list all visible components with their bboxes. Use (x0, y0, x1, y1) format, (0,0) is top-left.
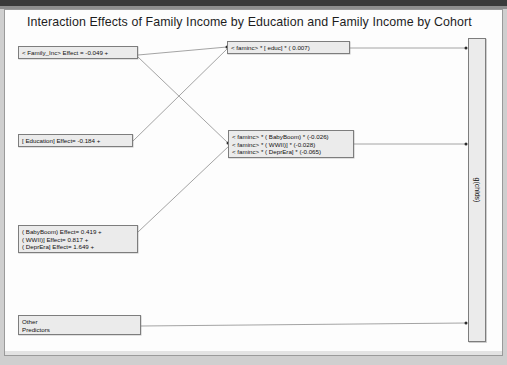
edge-education-to-faminc-educ (133, 49, 227, 141)
cohort-deprera-effect-text: ( DeprEra] Effect= 1.649 + (22, 243, 134, 251)
outcome-bar[interactable]: g(chlds) (468, 38, 486, 342)
faminc-by-educ-interaction-node[interactable]: < faminc> * [ educ] * ( 0.007) (227, 41, 350, 54)
page-bottom-edge (5, 351, 502, 355)
diagram-screenshot: Interaction Effects of Family Income by … (0, 0, 507, 365)
connector-lines (5, 10, 503, 356)
edge-endpoint-markers (226, 46, 468, 325)
diagram-page: Interaction Effects of Family Income by … (4, 9, 503, 356)
faminc-by-cohort-interaction-node[interactable]: < faminc> * ( BabyBoom) * (-0.026) < fam… (228, 130, 354, 158)
edge-family-income-to-faminc-educ (138, 47, 227, 55)
cohort-babyboom-effect-text: ( BabyBoom) Effect= 0.419 + (22, 228, 134, 236)
other-predictors-line-2: Predictors (22, 326, 137, 334)
education-node[interactable]: [ Education] Effect= -0.184 + (18, 134, 133, 147)
family-income-effect-text: < Family_Inc> Effect = -0.049 + (22, 49, 134, 57)
faminc-wwii-coefficient-text: < faminc> * ( WWII)] * (-0.028) (232, 141, 350, 149)
edge-cohort-to-faminc-cohort (138, 146, 229, 232)
faminc-babyboom-coefficient-text: < faminc> * ( BabyBoom) * (-0.026) (232, 133, 350, 141)
edge-family-income-to-faminc-cohort (138, 57, 227, 142)
faminc-educ-coefficient-text: < faminc> * [ educ] * ( 0.007) (231, 44, 346, 52)
family-income-node[interactable]: < Family_Inc> Effect = -0.049 + (18, 46, 138, 59)
other-predictors-line-1: Other (22, 318, 137, 326)
edge-other-predictors-to-outcome (141, 323, 466, 326)
other-predictors-node[interactable]: Other Predictors (18, 315, 141, 335)
faminc-deprera-coefficient-text: < faminc> * ( DeprEra] * (-0.065) (232, 148, 350, 156)
cohort-wwii-effect-text: ( WWII)] Effect= 0.817 + (22, 236, 134, 244)
education-effect-text: [ Education] Effect= -0.184 + (22, 137, 129, 145)
page-title: Interaction Effects of Family Income by … (27, 15, 472, 29)
outcome-bar-label: g(chlds) (474, 178, 481, 203)
cohort-node[interactable]: ( BabyBoom) Effect= 0.419 + ( WWII)] Eff… (18, 225, 138, 253)
